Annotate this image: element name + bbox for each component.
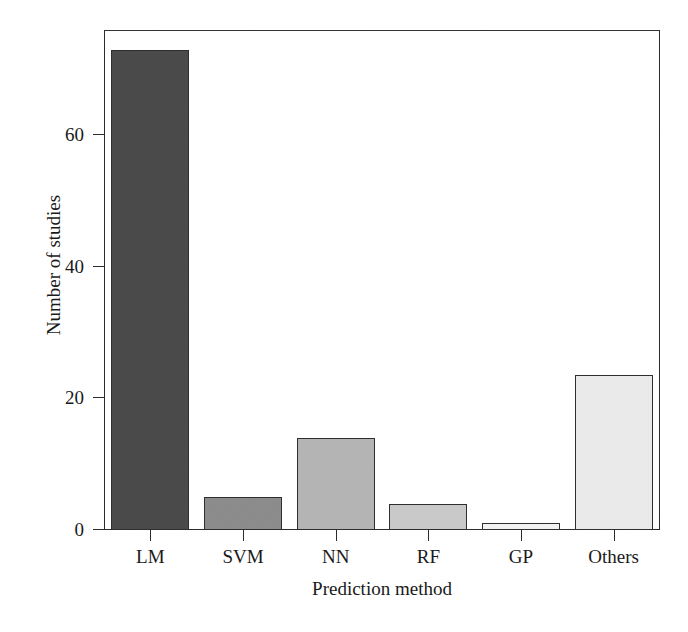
y-tick-label-0: 0 — [24, 520, 84, 539]
bar-lm — [111, 50, 189, 530]
x-tick-gp — [521, 530, 522, 541]
bar-nn — [297, 438, 375, 530]
y-tick-label-wrap: 0 — [18, 520, 84, 539]
bar-chart-figure: 0204060 LMSVMNNRFGPOthers Prediction met… — [0, 0, 688, 632]
y-axis-title: Number of studies — [43, 115, 65, 415]
bar-rf — [389, 504, 467, 530]
bar-others — [575, 375, 653, 530]
x-tick-svm — [243, 530, 244, 541]
y-tick-20 — [93, 397, 104, 398]
y-tick-60 — [93, 134, 104, 135]
x-tick-label-others: Others — [554, 546, 674, 568]
x-tick-rf — [428, 530, 429, 541]
x-tick-lm — [150, 530, 151, 541]
bar-gp — [482, 523, 560, 530]
bars-layer — [104, 30, 660, 530]
x-axis-title: Prediction method — [104, 578, 660, 600]
x-tick-others — [614, 530, 615, 541]
y-tick-0 — [93, 529, 104, 530]
y-tick-40 — [93, 266, 104, 267]
x-tick-nn — [336, 530, 337, 541]
bar-svm — [204, 497, 282, 530]
